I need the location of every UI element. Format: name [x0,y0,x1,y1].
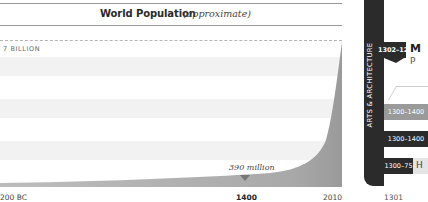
chart-title: World Population [100,8,196,19]
chart-header: World Population (approximate) [0,3,342,26]
x-label-end: 2010 [323,193,342,202]
timeline-year-label: 1301 [384,193,403,202]
timeline-date-tag[interactable]: 1300–75 [384,158,413,174]
timeline-entry-title[interactable]: M [410,42,421,55]
population-plot: 7 BILLION [0,40,342,187]
x-label-mid: 1400 [236,193,257,202]
x-label-start: 200 BC [0,193,27,202]
timeline-date-tag[interactable]: 1300–1400 [384,131,428,147]
category-label: ARTS & ARCHITECTURE [363,30,377,140]
timeline-date-tag[interactable]: 1302–12 [378,42,406,58]
annotation-marker-icon [240,175,250,181]
annotation-label: 390 million [229,163,275,172]
timeline-date-tag[interactable]: 1300–1400 [384,104,428,120]
population-curve [0,40,342,187]
timeline-card-outline [388,86,428,100]
y-max-label: 7 BILLION [3,45,40,53]
timeline-entry-title[interactable]: H [416,160,423,170]
timeline-entry-subtitle: P [410,56,415,66]
max-gridline [0,40,342,41]
chart-subtitle: (approximate) [183,8,251,19]
